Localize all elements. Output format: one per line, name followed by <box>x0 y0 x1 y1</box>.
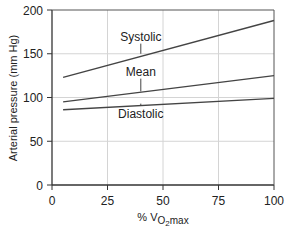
y-tick-label: 100 <box>23 91 43 105</box>
series-labels: SystolicMeanDiastolic <box>118 30 163 121</box>
series-line-systolic <box>63 21 274 78</box>
x-tick-label: 50 <box>156 194 170 208</box>
series-label-systolic: Systolic <box>120 30 161 44</box>
y-tick-label: 150 <box>23 47 43 61</box>
series-label-diastolic: Diastolic <box>118 107 163 121</box>
y-tick-label: 50 <box>30 135 44 149</box>
series-label-mean: Mean <box>126 65 156 79</box>
y-tick-label: 200 <box>23 4 43 18</box>
x-tick-label: 25 <box>101 194 115 208</box>
grid-lines <box>52 10 274 185</box>
series-lines <box>63 21 274 110</box>
y-tick-label: 0 <box>36 179 43 193</box>
chart: 0501001502000255075100 SystolicMeanDiast… <box>0 0 293 233</box>
x-tick-label: 0 <box>49 194 56 208</box>
series-line-diastolic <box>63 98 274 109</box>
x-axis-title: % VO2max <box>137 211 188 228</box>
x-tick-label: 100 <box>264 194 284 208</box>
y-axis-title: Arterial pressure (mm Hg) <box>7 35 19 162</box>
x-tick-label: 75 <box>212 194 226 208</box>
